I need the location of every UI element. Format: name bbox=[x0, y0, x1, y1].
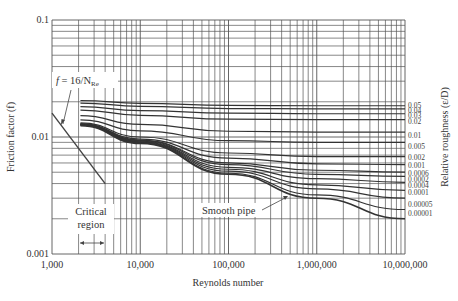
arrowhead-icon bbox=[61, 119, 65, 125]
svg-text:0.0001: 0.0001 bbox=[408, 188, 429, 197]
critical-region-label-2: region bbox=[78, 219, 106, 230]
svg-text:0.01: 0.01 bbox=[32, 131, 50, 142]
svg-text:10,000,000: 10,000,000 bbox=[383, 259, 428, 270]
svg-text:0.005: 0.005 bbox=[408, 142, 425, 151]
arrow-right-icon bbox=[100, 241, 104, 245]
svg-text:0.00005: 0.00005 bbox=[408, 200, 433, 209]
smooth-pipe-label: Smooth pipe bbox=[202, 205, 256, 216]
laminar-pointer bbox=[63, 90, 71, 124]
svg-text:0.02: 0.02 bbox=[408, 117, 421, 126]
svg-text:0.001: 0.001 bbox=[27, 248, 50, 259]
right-axis-label: Relative roughness (ε/D) bbox=[439, 87, 451, 187]
y-axis-label: Friction factor (f) bbox=[5, 102, 17, 172]
roughness-curves bbox=[80, 101, 405, 219]
arrow-left-icon bbox=[80, 241, 84, 245]
svg-text:0.00001: 0.00001 bbox=[408, 209, 433, 218]
svg-text:10,000: 10,000 bbox=[127, 259, 155, 270]
x-axis-label: Reynolds number bbox=[193, 277, 264, 288]
svg-text:1,000: 1,000 bbox=[41, 259, 64, 270]
roughness-labels: 0.050.040.030.020.010.0050.0020.0010.000… bbox=[408, 101, 433, 218]
moody-diagram: 1,00010,000100,0001,000,00010,000,0000.0… bbox=[0, 0, 458, 301]
svg-text:0.1: 0.1 bbox=[37, 14, 50, 25]
svg-text:100,000: 100,000 bbox=[212, 259, 245, 270]
svg-text:1,000,000: 1,000,000 bbox=[297, 259, 337, 270]
critical-region-label: Critical bbox=[75, 206, 107, 217]
svg-text:0.01: 0.01 bbox=[408, 131, 421, 140]
